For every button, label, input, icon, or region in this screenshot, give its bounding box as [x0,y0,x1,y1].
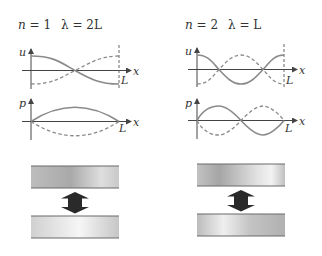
panel-title-mode-2: n = 2λ = L [185,18,261,32]
bottom-plate [31,216,119,238]
u-axis-label: u [19,46,26,59]
plates-mode-1 [31,166,119,238]
double-arrow-icon [227,190,255,212]
pressure-plot-mode-1: p x L [19,97,140,140]
x-axis-label: x [299,115,306,128]
panel-title-mode-1: n = 1λ = 2L [18,18,102,32]
p-axis-label: p [185,97,192,110]
p-axis-label: p [19,97,26,110]
double-arrow-icon [61,192,89,214]
standing-wave-modes-diagram: n = 1λ = 2L u x L p x L [0,0,322,256]
length-label: L [120,74,128,87]
x-axis-label: x [299,64,306,77]
bottom-plate [197,214,285,236]
pressure-curve-dashed [31,122,119,136]
plates-mode-2 [197,164,285,236]
panel-mode-1: n = 1λ = 2L u x L p x L [18,18,140,238]
displacement-plot-mode-1: u x L [19,45,140,89]
length-label: L [118,122,126,135]
length-label: L [285,74,293,87]
top-plate [31,166,119,188]
u-axis-label: u [185,45,192,58]
pressure-curve-solid [31,107,119,121]
panel-mode-2: n = 2λ = L u x L p x L [185,18,306,236]
x-axis-label: x [133,116,140,129]
top-plate [197,164,285,186]
length-label: L [284,122,292,135]
pressure-plot-mode-2: p x L [185,97,306,139]
displacement-plot-mode-2: u x L [185,44,306,88]
x-axis-label: x [133,65,140,78]
